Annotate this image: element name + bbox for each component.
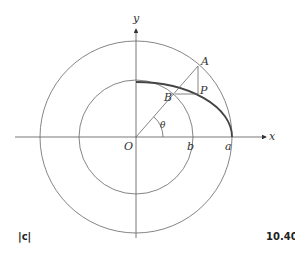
ellipse-construction-diagram: y x O A B P θ b a |c| 10.40 [0, 0, 295, 254]
inner-radius-label: b [187, 140, 194, 153]
figure-tag: |c| [18, 231, 31, 243]
point-b-label: B [163, 91, 172, 104]
ellipse-arc [136, 82, 232, 137]
outer-radius-label: a [225, 140, 232, 153]
figure-number: 10.40 [266, 231, 295, 242]
point-a-label: A [200, 55, 209, 68]
y-axis-label: y [132, 12, 140, 25]
origin-label: O [124, 140, 133, 153]
angle-label: θ [160, 120, 166, 130]
x-axis-label: x [269, 130, 276, 143]
point-p-label: P [199, 84, 208, 97]
